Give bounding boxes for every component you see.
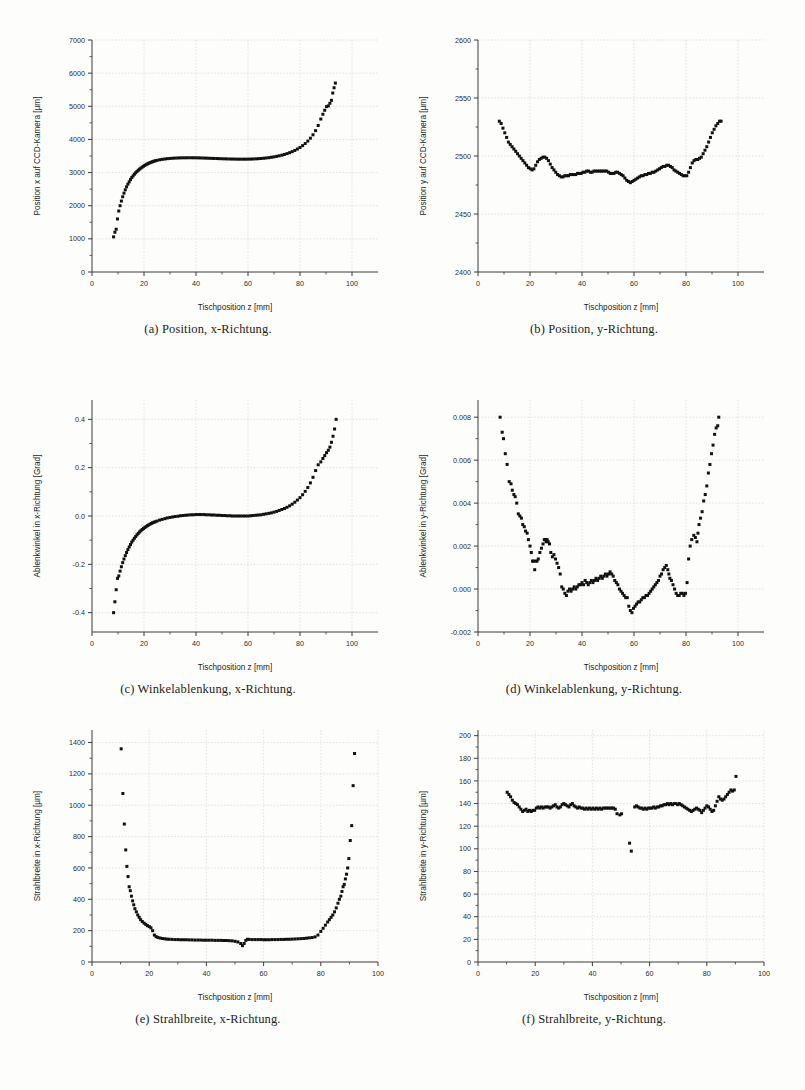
caption-c: (c) Winkelablenkung, x-Richtung. bbox=[18, 682, 398, 697]
svg-text:100: 100 bbox=[346, 639, 358, 648]
svg-text:100: 100 bbox=[372, 969, 384, 978]
svg-text:40: 40 bbox=[463, 912, 471, 921]
svg-text:0: 0 bbox=[81, 958, 85, 967]
svg-text:800: 800 bbox=[73, 832, 85, 841]
figure-panel-c: -0.4-0.20.00.20.4020406080100Tischpositi… bbox=[18, 382, 398, 737]
plot-f: 020406080100120140160180200020406080100T… bbox=[404, 712, 784, 1012]
svg-text:100: 100 bbox=[732, 639, 744, 648]
svg-text:0.002: 0.002 bbox=[453, 542, 471, 551]
figure-panel-d: -0.0020.0000.0020.0040.0060.008020406080… bbox=[404, 382, 784, 737]
data-series bbox=[499, 416, 721, 614]
svg-text:0.4: 0.4 bbox=[75, 415, 85, 424]
svg-text:80: 80 bbox=[463, 867, 471, 876]
svg-text:20: 20 bbox=[526, 639, 534, 648]
svg-text:60: 60 bbox=[463, 890, 471, 899]
caption-f: (f) Strahlbreite, y-Richtung. bbox=[404, 1012, 784, 1027]
svg-text:100: 100 bbox=[732, 279, 744, 288]
svg-text:200: 200 bbox=[459, 731, 471, 740]
svg-text:40: 40 bbox=[578, 639, 586, 648]
svg-text:0: 0 bbox=[81, 268, 85, 277]
svg-text:40: 40 bbox=[588, 969, 596, 978]
svg-text:600: 600 bbox=[73, 864, 85, 873]
y-axis-title: Strahlbreite in x-Richtung [µm] bbox=[33, 791, 42, 901]
svg-text:1000: 1000 bbox=[69, 801, 85, 810]
svg-text:80: 80 bbox=[296, 639, 304, 648]
svg-text:-0.2: -0.2 bbox=[73, 560, 85, 569]
caption-e: (e) Strahlbreite, x-Richtung. bbox=[18, 1012, 398, 1027]
figure-panel-a: 0100020003000400050006000700002040608010… bbox=[18, 22, 398, 377]
y-axis-title: Position x auf CCD-Kamera [µm] bbox=[33, 97, 42, 216]
svg-text:60: 60 bbox=[244, 279, 252, 288]
svg-text:2600: 2600 bbox=[455, 36, 471, 45]
svg-text:-0.002: -0.002 bbox=[451, 628, 471, 637]
svg-text:0: 0 bbox=[90, 639, 94, 648]
svg-text:2400: 2400 bbox=[455, 268, 471, 277]
svg-text:0: 0 bbox=[476, 639, 480, 648]
svg-text:0: 0 bbox=[90, 969, 94, 978]
svg-text:0.008: 0.008 bbox=[453, 413, 471, 422]
svg-text:160: 160 bbox=[459, 777, 471, 786]
plot-a: 0100020003000400050006000700002040608010… bbox=[18, 22, 398, 322]
svg-text:0: 0 bbox=[476, 969, 480, 978]
svg-text:100: 100 bbox=[346, 279, 358, 288]
svg-text:20: 20 bbox=[140, 279, 148, 288]
svg-text:6000: 6000 bbox=[69, 69, 85, 78]
svg-text:0.004: 0.004 bbox=[453, 499, 471, 508]
svg-text:0.2: 0.2 bbox=[75, 463, 85, 472]
svg-text:20: 20 bbox=[526, 279, 534, 288]
svg-text:120: 120 bbox=[459, 822, 471, 831]
caption-b: (b) Position, y-Richtung. bbox=[404, 322, 784, 337]
svg-text:80: 80 bbox=[682, 639, 690, 648]
svg-text:180: 180 bbox=[459, 754, 471, 763]
svg-text:200: 200 bbox=[73, 926, 85, 935]
figure-panel-e: 0200400600800100012001400020406080100Tis… bbox=[18, 712, 398, 1067]
svg-text:80: 80 bbox=[296, 279, 304, 288]
svg-text:0.006: 0.006 bbox=[453, 456, 471, 465]
svg-text:-0.4: -0.4 bbox=[73, 608, 85, 617]
svg-text:60: 60 bbox=[244, 639, 252, 648]
svg-text:40: 40 bbox=[202, 969, 210, 978]
svg-text:140: 140 bbox=[459, 799, 471, 808]
plot-c: -0.4-0.20.00.20.4020406080100Tischpositi… bbox=[18, 382, 398, 682]
y-axis-title: Ablenkwinkel in y-Richtung [Grad] bbox=[419, 455, 428, 578]
svg-text:20: 20 bbox=[531, 969, 539, 978]
svg-text:2450: 2450 bbox=[455, 210, 471, 219]
svg-text:40: 40 bbox=[578, 279, 586, 288]
svg-text:1200: 1200 bbox=[69, 769, 85, 778]
y-axis-title: Ablenkwinkel in x-Richtung [Grad] bbox=[33, 455, 42, 578]
figure-panel-f: 020406080100120140160180200020406080100T… bbox=[404, 712, 784, 1067]
figure-grid: 0100020003000400050006000700002040608010… bbox=[0, 0, 805, 1090]
svg-text:400: 400 bbox=[73, 895, 85, 904]
svg-text:100: 100 bbox=[459, 844, 471, 853]
x-axis-title: Tischposition z [mm] bbox=[198, 663, 272, 672]
svg-text:20: 20 bbox=[145, 969, 153, 978]
caption-a: (a) Position, x-Richtung. bbox=[18, 322, 398, 337]
data-series bbox=[112, 82, 337, 239]
svg-text:60: 60 bbox=[260, 969, 268, 978]
x-axis-title: Tischposition z [mm] bbox=[584, 993, 658, 1002]
x-axis-title: Tischposition z [mm] bbox=[198, 303, 272, 312]
svg-text:60: 60 bbox=[646, 969, 654, 978]
svg-text:3000: 3000 bbox=[69, 168, 85, 177]
x-axis-title: Tischposition z [mm] bbox=[584, 303, 658, 312]
plot-d: -0.0020.0000.0020.0040.0060.008020406080… bbox=[404, 382, 784, 682]
x-axis-title: Tischposition z [mm] bbox=[198, 993, 272, 1002]
svg-text:40: 40 bbox=[192, 279, 200, 288]
svg-text:80: 80 bbox=[703, 969, 711, 978]
svg-text:40: 40 bbox=[192, 639, 200, 648]
svg-text:5000: 5000 bbox=[69, 102, 85, 111]
svg-text:80: 80 bbox=[682, 279, 690, 288]
svg-text:1000: 1000 bbox=[69, 234, 85, 243]
svg-text:2550: 2550 bbox=[455, 94, 471, 103]
data-series bbox=[506, 775, 738, 853]
svg-text:0.0: 0.0 bbox=[75, 512, 85, 521]
svg-text:20: 20 bbox=[140, 639, 148, 648]
plot-e: 0200400600800100012001400020406080100Tis… bbox=[18, 712, 398, 1012]
svg-text:0: 0 bbox=[467, 958, 471, 967]
svg-text:60: 60 bbox=[630, 639, 638, 648]
y-axis-title: Strahlbreite in y-Richtung [µm] bbox=[419, 791, 428, 901]
svg-text:0: 0 bbox=[476, 279, 480, 288]
svg-text:100: 100 bbox=[758, 969, 770, 978]
svg-text:2000: 2000 bbox=[69, 201, 85, 210]
y-axis-title: Position y auf CCD-Kamera [µm] bbox=[419, 97, 428, 216]
